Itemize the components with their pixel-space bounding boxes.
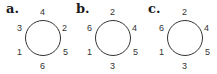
panel-label: c. <box>148 1 160 16</box>
number-lower-right: 5 <box>63 48 68 57</box>
number-lower-right: 5 <box>133 48 138 57</box>
number-upper-left: 6 <box>87 24 92 33</box>
number-upper-right: 4 <box>204 24 209 33</box>
number-lower-right: 5 <box>205 48 210 57</box>
number-top: 2 <box>182 8 187 17</box>
panel-b: b. 2 6 4 1 5 3 <box>70 0 142 74</box>
number-lower-left: 1 <box>87 48 92 57</box>
number-bottom: 6 <box>40 62 45 71</box>
number-bottom: 3 <box>110 62 115 71</box>
circle <box>167 20 203 56</box>
number-upper-left: 3 <box>17 24 22 33</box>
number-upper-right: 4 <box>132 24 137 33</box>
panel-c: c. 2 6 4 1 5 3 <box>142 0 214 74</box>
panel-a: a. 4 3 2 1 5 6 <box>0 0 72 74</box>
number-top: 2 <box>110 8 115 17</box>
number-lower-left: 1 <box>159 48 164 57</box>
number-top: 4 <box>40 8 45 17</box>
panel-label: a. <box>6 1 19 16</box>
number-upper-left: 6 <box>159 24 164 33</box>
circle <box>25 20 61 56</box>
panel-label: b. <box>76 1 90 16</box>
number-upper-right: 2 <box>62 24 67 33</box>
circle <box>95 20 131 56</box>
number-bottom: 3 <box>182 62 187 71</box>
number-lower-left: 1 <box>17 48 22 57</box>
